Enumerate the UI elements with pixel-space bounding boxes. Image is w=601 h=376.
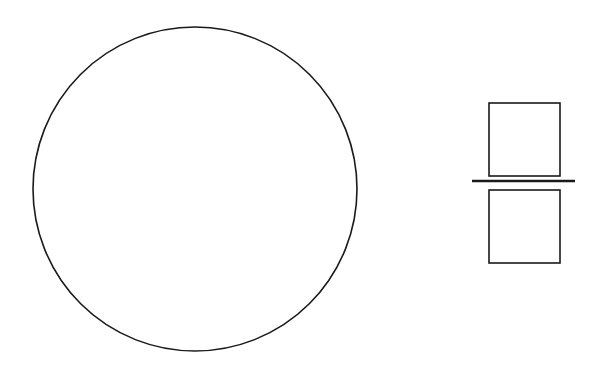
denominator-square	[489, 190, 560, 263]
fraction-group	[472, 103, 575, 263]
numerator-square	[489, 103, 560, 176]
diagram-canvas	[0, 0, 601, 376]
large-circle	[33, 27, 357, 351]
